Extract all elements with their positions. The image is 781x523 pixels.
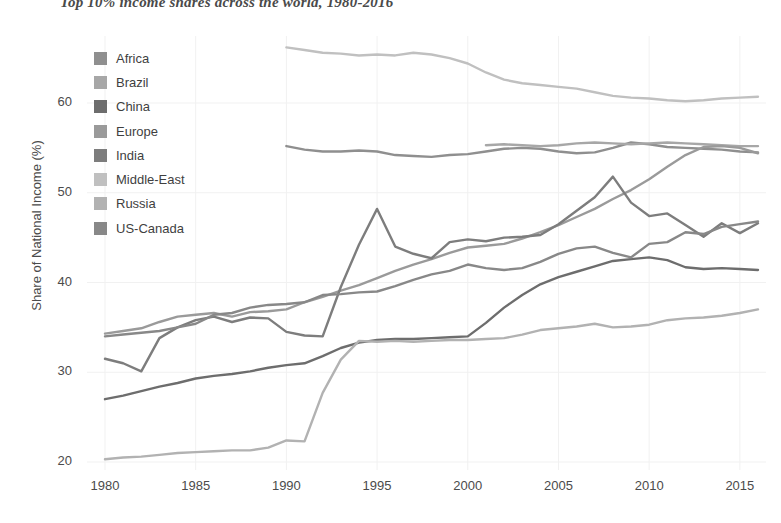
legend-item[interactable]: Middle-East: [94, 167, 185, 191]
series-line: [286, 47, 758, 101]
legend-swatch-icon: [94, 76, 107, 89]
legend-item-label: Russia: [116, 196, 156, 211]
legend-item-label: Middle-East: [116, 172, 185, 187]
series-line: [105, 221, 758, 336]
series-line: [105, 309, 758, 459]
legend-item-label: Europe: [116, 124, 158, 139]
legend-swatch-icon: [94, 125, 107, 138]
series-line: [105, 146, 758, 334]
legend-swatch-icon: [94, 100, 107, 113]
series-line: [105, 257, 758, 399]
legend-item-label: India: [116, 148, 144, 163]
legend-item-label: Brazil: [116, 75, 149, 90]
legend-item-label: Africa: [116, 51, 149, 66]
legend-item[interactable]: US-Canada: [94, 216, 185, 240]
legend-item[interactable]: Africa: [94, 46, 185, 70]
line-chart: Top 10% income shares across the world, …: [0, 0, 781, 523]
chart-legend: AfricaBrazilChinaEuropeIndiaMiddle-EastR…: [94, 46, 185, 240]
legend-item[interactable]: India: [94, 143, 185, 167]
legend-item[interactable]: Russia: [94, 192, 185, 216]
legend-item-label: China: [116, 99, 150, 114]
legend-item[interactable]: Europe: [94, 119, 185, 143]
legend-swatch-icon: [94, 222, 107, 235]
legend-swatch-icon: [94, 197, 107, 210]
legend-item[interactable]: China: [94, 95, 185, 119]
legend-item-label: US-Canada: [116, 221, 184, 236]
legend-swatch-icon: [94, 173, 107, 186]
legend-swatch-icon: [94, 149, 107, 162]
legend-item[interactable]: Brazil: [94, 70, 185, 94]
legend-swatch-icon: [94, 52, 107, 65]
